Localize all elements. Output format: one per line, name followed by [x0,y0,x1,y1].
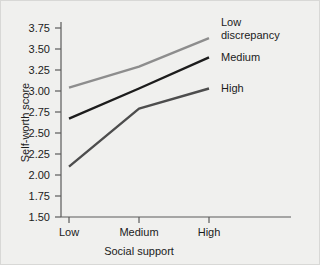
series-labels-group: LowdiscrepancyMediumHigh [221,16,280,94]
x-tick-label: Medium [119,226,158,238]
y-tick-label: 3.75 [29,22,50,34]
y-axis-title: Self-worth score [19,83,31,162]
x-axis-ticks [69,217,209,223]
y-axis-tick-labels: 1.501.752.002.252.502.753.003.253.503.75 [29,22,50,223]
y-tick-label: 3.25 [29,64,50,76]
data-series-group [69,38,209,167]
y-tick-label: 2.25 [29,148,50,160]
x-axis-tick-labels: LowMediumHigh [59,226,220,238]
x-tick-label: High [198,226,221,238]
y-axis-ticks [55,28,61,217]
y-tick-label: 1.50 [29,211,50,223]
chart-figure: 1.501.752.002.252.502.753.003.253.503.75… [0,0,320,265]
series-line-high [69,88,209,166]
series-label-low-discrepancy: discrepancy [221,29,280,41]
x-axis-title: Social support [104,245,174,257]
series-line-low-discrepancy [69,38,209,88]
series-label-high: High [221,82,244,94]
y-tick-label: 3.00 [29,85,50,97]
y-tick-label: 2.00 [29,169,50,181]
series-label-medium: Medium [221,51,260,63]
y-tick-label: 2.75 [29,106,50,118]
y-tick-label: 1.75 [29,190,50,202]
x-tick-label: Low [59,226,79,238]
y-tick-label: 3.50 [29,43,50,55]
series-label-low-discrepancy: Low [221,16,241,28]
line-chart: 1.501.752.002.252.502.753.003.253.503.75… [1,1,320,265]
y-tick-label: 2.50 [29,127,50,139]
